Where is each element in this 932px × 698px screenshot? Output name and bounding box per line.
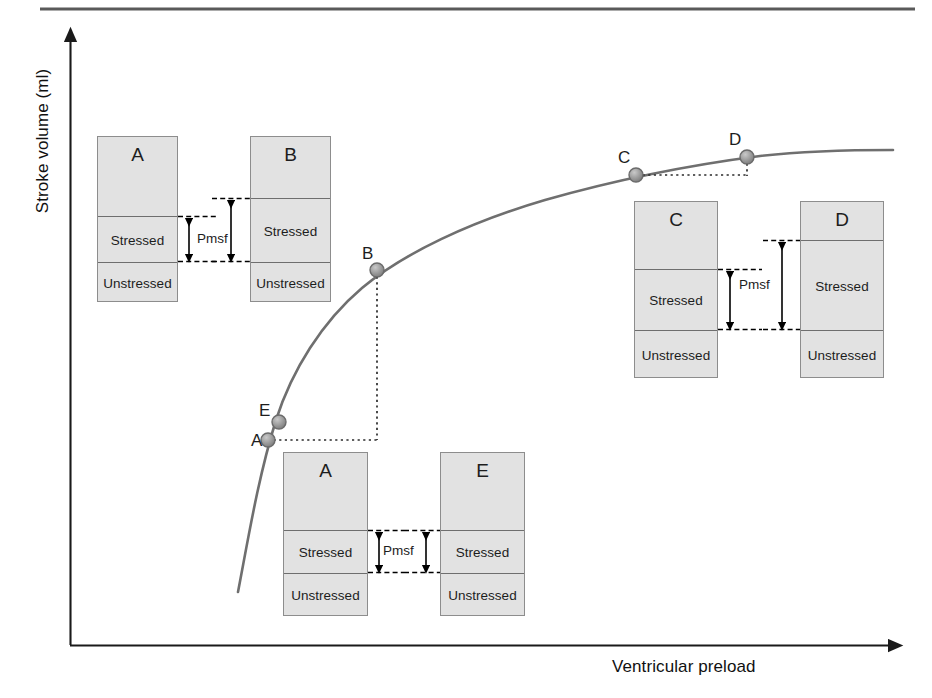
box-divider-stressed-top xyxy=(801,240,883,241)
stressed-label: Stressed xyxy=(815,279,868,294)
box-divider-stressed-bottom xyxy=(251,262,330,263)
curve-point-label-b-2: B xyxy=(362,245,373,262)
box-divider-stressed-top xyxy=(635,269,717,270)
curve-point-marker-c xyxy=(629,168,643,182)
box-stressed-segment: Stressed xyxy=(98,217,177,263)
y-axis-title: Stroke volume (ml) xyxy=(33,31,53,251)
box-stressed-segment: Stressed xyxy=(284,531,367,574)
box-divider-stressed-top xyxy=(251,198,330,199)
curve-point-label-a-0: A xyxy=(251,432,262,449)
box-title-segment: A xyxy=(284,453,367,531)
unstressed-label: Unstressed xyxy=(642,348,710,363)
box-divider-stressed-bottom xyxy=(441,573,524,574)
box-stressed-segment: Stressed xyxy=(635,270,717,331)
stressed-label: Stressed xyxy=(456,545,509,560)
compartment-box-box-e-bottom: EStressedUnstressed xyxy=(440,452,525,616)
compartment-box-box-b-top: BStressedUnstressed xyxy=(250,136,331,302)
unstressed-label: Unstressed xyxy=(291,588,359,603)
box-divider-stressed-top xyxy=(441,530,524,531)
curve-point-marker-e xyxy=(272,415,286,429)
box-stressed-segment: Stressed xyxy=(251,199,330,263)
stressed-label: Stressed xyxy=(111,233,164,248)
compartment-box-box-d: DStressedUnstressed xyxy=(800,201,884,378)
box-title: A xyxy=(131,145,144,164)
box-title-segment: D xyxy=(801,202,883,241)
curve-point-marker-d xyxy=(740,150,754,164)
box-unstressed-segment: Unstressed xyxy=(801,331,883,379)
pmsf-label-pmsf-ae: Pmsf xyxy=(383,544,414,558)
box-unstressed-segment: Unstressed xyxy=(635,331,717,379)
box-unstressed-segment: Unstressed xyxy=(251,263,330,303)
stressed-label: Stressed xyxy=(649,293,702,308)
box-divider-stressed-bottom xyxy=(284,573,367,574)
box-title: B xyxy=(284,145,297,164)
box-stressed-segment: Stressed xyxy=(441,531,524,574)
box-title-segment: A xyxy=(98,137,177,217)
pmsf-annotation-ab xyxy=(178,199,250,262)
box-unstressed-segment: Unstressed xyxy=(284,574,367,617)
box-divider-stressed-top xyxy=(98,216,177,217)
box-divider-stressed-top xyxy=(284,530,367,531)
x-axis-title: Ventricular preload xyxy=(612,657,756,677)
pmsf-label-pmsf-cd: Pmsf xyxy=(739,278,770,292)
stressed-label: Stressed xyxy=(299,545,352,560)
box-title: D xyxy=(835,210,849,229)
stressed-label: Stressed xyxy=(264,224,317,239)
box-title-segment: E xyxy=(441,453,524,531)
box-title-segment: B xyxy=(251,137,330,199)
box-unstressed-segment: Unstressed xyxy=(98,263,177,303)
compartment-box-box-a-top: AStressedUnstressed xyxy=(97,136,178,302)
unstressed-label: Unstressed xyxy=(808,348,876,363)
frank-starling-pmsf-figure: Stroke volume (ml) Ventricular preload A… xyxy=(0,0,932,698)
curve-point-label-c-3: C xyxy=(618,149,630,166)
curve-point-marker-a xyxy=(261,433,275,447)
compartment-box-box-a-bottom: AStressedUnstressed xyxy=(283,452,368,616)
unstressed-label: Unstressed xyxy=(103,276,171,291)
compartment-box-box-c: CStressedUnstressed xyxy=(634,201,718,378)
box-title-segment: C xyxy=(635,202,717,270)
box-stressed-segment: Stressed xyxy=(801,241,883,331)
box-title: C xyxy=(669,210,683,229)
box-divider-stressed-bottom xyxy=(801,330,883,331)
box-title: E xyxy=(476,461,489,480)
unstressed-label: Unstressed xyxy=(448,588,516,603)
box-title: A xyxy=(319,461,332,480)
pmsf-label-pmsf-ab: Pmsf xyxy=(197,232,228,246)
box-divider-stressed-bottom xyxy=(98,262,177,263)
curve-point-label-e-1: E xyxy=(259,402,270,419)
box-divider-stressed-bottom xyxy=(635,330,717,331)
unstressed-label: Unstressed xyxy=(256,276,324,291)
curve-point-marker-b xyxy=(370,263,384,277)
box-unstressed-segment: Unstressed xyxy=(441,574,524,617)
curve-point-label-d-4: D xyxy=(729,131,741,148)
